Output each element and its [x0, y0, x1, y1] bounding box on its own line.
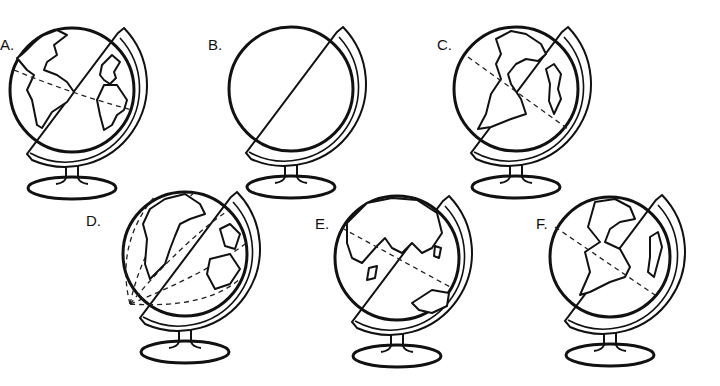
globe-f: [550, 195, 685, 366]
globe-b: [229, 27, 366, 198]
globes-illustration: [0, 0, 720, 386]
globe-a: [10, 28, 147, 199]
globe-e: [335, 196, 472, 367]
globe-d: [123, 192, 260, 363]
globe-c: [454, 27, 591, 198]
